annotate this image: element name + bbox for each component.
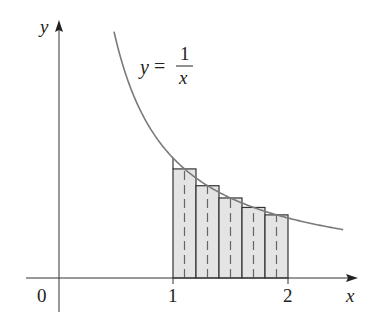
function-label: y = 1 x (138, 43, 193, 88)
midpoint-rectangle-3 (219, 198, 242, 278)
y-axis-label: y (38, 16, 49, 37)
function-label-numerator: 1 (180, 43, 190, 64)
function-label-lhs: y (138, 56, 149, 79)
function-label-denominator: x (178, 67, 188, 88)
x-axis-label: x (345, 285, 355, 306)
x-tick-label-2: 2 (283, 285, 293, 306)
origin-label: 0 (37, 285, 47, 306)
function-label-eq: = (154, 55, 165, 77)
x-tick-label-1: 1 (168, 285, 178, 306)
midpoint-rule-diagram: y x 0 1 2 y = 1 x (0, 0, 379, 335)
midpoint-rectangles (173, 158, 288, 278)
